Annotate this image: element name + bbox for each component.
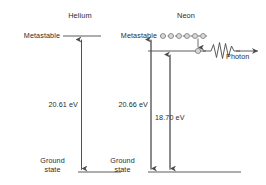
neon-metastable-label: Metastable [100, 31, 157, 40]
helium-metastable-label: Metastable [2, 31, 60, 40]
electron-circle [193, 34, 198, 39]
energy-level-diagram: Helium Neon Metastable Metastable 20.61 … [0, 0, 266, 185]
helium-transition-label: 20.61 eV [33, 100, 78, 109]
neon-title: Neon [162, 11, 210, 20]
electron-circle [185, 34, 190, 39]
neon-ground-label-line2: state [99, 165, 146, 175]
neon-transition-label-upper: 20.66 eV [103, 100, 148, 109]
electron-circle-lower-level [195, 48, 200, 53]
electron-circle [169, 34, 174, 39]
photon-label: Photon [226, 52, 266, 61]
helium-title: Helium [52, 11, 108, 20]
electron-circle [161, 34, 166, 39]
electron-circle [201, 34, 206, 39]
helium-ground-label-line2: state [29, 165, 76, 175]
neon-transition-label-lower: 18.70 eV [155, 113, 205, 122]
electron-circle [177, 34, 182, 39]
